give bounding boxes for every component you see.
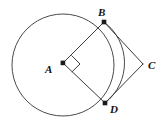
segment-bc: [104, 22, 143, 64]
segment-ab: [63, 22, 104, 63]
vertex-dot-b: [102, 20, 107, 25]
right-angle-marker-at-a: [72, 55, 81, 72]
geometry-figure: A B C D: [0, 0, 160, 128]
point-label-a: A: [45, 64, 52, 75]
vertex-dot-d: [103, 101, 108, 106]
point-label-c: C: [148, 60, 155, 71]
vertex-dot-a: [61, 61, 66, 66]
geometry-canvas: [0, 0, 160, 128]
segment-ad: [63, 63, 105, 103]
point-label-b: B: [98, 7, 105, 18]
point-label-d: D: [110, 104, 118, 115]
